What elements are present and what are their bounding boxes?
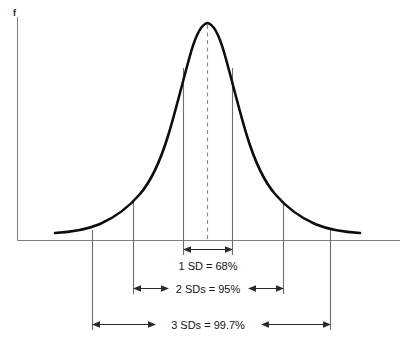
dimension-2-sds-arrow-outer-left bbox=[133, 285, 141, 291]
dimension-3-sds-label: 3 SDs = 99.7% bbox=[171, 319, 245, 331]
dimension-1-sd-arrow-left bbox=[183, 246, 191, 252]
dimension-2-sds-arrow-outer-right bbox=[276, 285, 284, 291]
dimension-2-sds-arrow-inner-right bbox=[248, 285, 256, 291]
dimension-2-sds-label: 2 SDs = 95% bbox=[176, 283, 241, 295]
dimension-3-sds-arrow-inner-right bbox=[261, 321, 269, 327]
dimension-1-sd-arrow-right bbox=[225, 246, 233, 252]
dimension-2-sds: 2 SDs = 95% bbox=[133, 283, 284, 295]
dimension-3-sds: 3 SDs = 99.7% bbox=[92, 319, 331, 331]
dimension-2-sds-arrow-inner-left bbox=[161, 285, 169, 291]
y-axis-label: f bbox=[13, 8, 17, 18]
dimension-1-sd: 1 SD = 68% bbox=[178, 246, 237, 272]
dimension-1-sd-label: 1 SD = 68% bbox=[178, 260, 237, 272]
normal-distribution-figure: f 1 SD = 68% bbox=[0, 0, 409, 342]
dimension-3-sds-arrow-outer-right bbox=[323, 321, 331, 327]
dimension-3-sds-arrow-outer-left bbox=[92, 321, 100, 327]
dimension-3-sds-arrow-inner-left bbox=[148, 321, 156, 327]
